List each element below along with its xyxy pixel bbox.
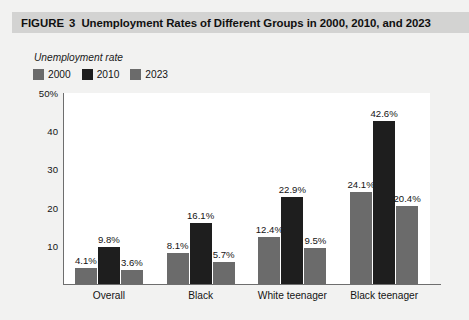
bar-2010-black[interactable]: 16.1%	[190, 223, 212, 285]
legend-swatch-2023	[130, 69, 141, 80]
bar-value-label: 3.6%	[121, 257, 143, 268]
bar-value-label: 4.1%	[75, 255, 97, 266]
category-label-black-teenager: Black teenager	[350, 290, 418, 301]
y-tick-10: 10	[47, 240, 58, 251]
figure-label: FIGURE	[21, 17, 64, 29]
bar-2000-white-teenager[interactable]: 12.4%	[258, 237, 280, 284]
y-tick-50: 50%	[39, 88, 58, 99]
bar-2010-black-teenager[interactable]: 42.6%	[373, 121, 395, 284]
y-tick-20: 20	[47, 202, 58, 213]
legend-label-2010: 2010	[97, 69, 120, 80]
legend-swatch-2000	[33, 69, 44, 80]
bars-layer: 4.1%9.8%3.6%8.1%16.1%5.7%12.4%22.9%9.5%2…	[63, 93, 441, 284]
bar-group-overall: 4.1%9.8%3.6%	[75, 93, 143, 284]
bar-2023-white-teenager[interactable]: 9.5%	[304, 248, 326, 284]
bar-group-white-teenager: 12.4%22.9%9.5%	[258, 93, 326, 284]
legend-item-2023: 2023	[130, 69, 168, 80]
figure-title: Unemployment Rates of Different Groups i…	[81, 17, 431, 29]
bar-2000-black[interactable]: 8.1%	[167, 253, 189, 284]
legend-label-2000: 2000	[48, 69, 71, 80]
chart-legend: 2000 2010 2023	[33, 69, 179, 80]
y-axis-title: Unemployment rate	[34, 52, 123, 63]
bar-value-label: 42.6%	[371, 108, 398, 119]
bar-2023-overall[interactable]: 3.6%	[121, 270, 143, 284]
bar-value-label: 16.1%	[187, 210, 214, 221]
legend-item-2010: 2010	[82, 69, 120, 80]
category-label-white-teenager: White teenager	[258, 290, 327, 301]
bar-value-label: 5.7%	[213, 249, 235, 260]
bar-2000-black-teenager[interactable]: 24.1%	[350, 192, 372, 284]
bar-group-black-teenager: 24.1%42.6%20.4%	[350, 93, 418, 284]
bar-2023-black-teenager[interactable]: 20.4%	[396, 206, 418, 284]
chart-canvas: Unemployment rate 2000 2010 2023 1020304…	[12, 33, 469, 320]
y-tick-30: 30	[47, 164, 58, 175]
x-axis-line	[63, 284, 441, 285]
bar-group-black: 8.1%16.1%5.7%	[167, 93, 235, 284]
bar-value-label: 8.1%	[167, 240, 189, 251]
bar-2010-white-teenager[interactable]: 22.9%	[281, 197, 303, 284]
bar-value-label: 20.4%	[394, 193, 421, 204]
bar-2000-overall[interactable]: 4.1%	[75, 268, 97, 284]
bar-2023-black[interactable]: 5.7%	[213, 262, 235, 284]
bar-value-label: 12.4%	[256, 224, 283, 235]
bar-value-label: 24.1%	[348, 179, 375, 190]
legend-label-2023: 2023	[145, 69, 168, 80]
legend-item-2000: 2000	[33, 69, 71, 80]
y-tick-40: 40	[47, 126, 58, 137]
figure-title-bar: FIGURE 3 Unemployment Rates of Different…	[12, 12, 469, 33]
figure-number: 3	[69, 17, 75, 29]
figure-container: FIGURE 3 Unemployment Rates of Different…	[0, 0, 469, 320]
y-axis-ticks: 1020304050%	[12, 93, 58, 284]
category-label-overall: Overall	[93, 290, 125, 301]
bar-value-label: 9.5%	[304, 235, 326, 246]
bar-value-label: 22.9%	[279, 184, 306, 195]
legend-swatch-2010	[82, 69, 93, 80]
bar-value-label: 9.8%	[98, 234, 120, 245]
category-label-black: Black	[188, 290, 213, 301]
bar-2010-overall[interactable]: 9.8%	[98, 247, 120, 284]
